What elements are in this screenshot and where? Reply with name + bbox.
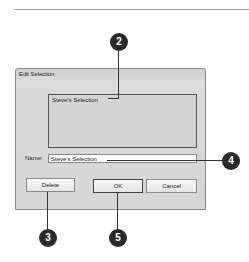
edit-selection-dialog: Edit Selection Steve's Selection Name: D… (15, 68, 206, 210)
callout-4-leader (107, 160, 223, 161)
callout-2-marker: 2 (110, 33, 128, 51)
callout-2-leader-horizontal (108, 98, 119, 99)
callout-5-marker: 5 (109, 229, 127, 247)
callout-2-leader-vertical (118, 51, 119, 99)
name-label: Name: (25, 155, 43, 161)
cancel-button[interactable]: Cancel (146, 179, 197, 193)
ok-button[interactable]: OK (93, 179, 143, 193)
dialog-title: Edit Selection (19, 71, 54, 77)
top-divider (14, 9, 249, 10)
list-item[interactable]: Steve's Selection (52, 97, 98, 103)
callout-3-marker: 3 (39, 229, 57, 247)
delete-button[interactable]: Delete (26, 178, 75, 192)
name-input[interactable] (48, 154, 197, 163)
callout-3-leader (47, 192, 48, 230)
callout-4-marker: 4 (222, 152, 240, 170)
callout-5-leader (117, 193, 118, 230)
selection-list[interactable]: Steve's Selection (48, 94, 197, 148)
